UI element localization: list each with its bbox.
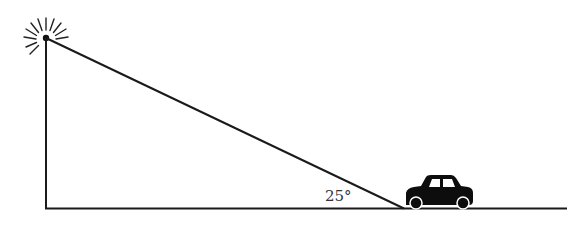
car-icon xyxy=(406,175,473,209)
diagram-canvas: 25° xyxy=(0,0,571,228)
sight-line xyxy=(46,38,404,209)
angle-label: 25° xyxy=(325,187,352,205)
